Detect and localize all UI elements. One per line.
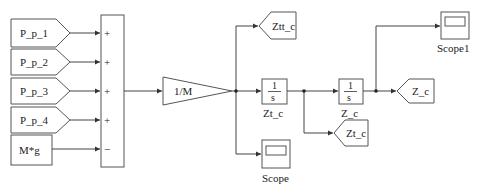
sum-sign-minus: − [104,143,110,155]
signal-line[interactable] [304,91,333,133]
constant-block-mg[interactable]: M*g [11,135,52,165]
signal-line[interactable] [236,26,258,91]
gain-label: 1/M [174,85,193,97]
integrator-block-zt-c[interactable]: 1 s [262,79,287,104]
from-block-p-p-4[interactable]: P_p_4 [11,107,70,133]
scope-block[interactable] [262,140,290,168]
integrator-numerator: 1 [272,80,277,91]
scope1-block[interactable] [441,12,469,39]
from-block-p-p-1[interactable]: P_p_1 [11,19,70,47]
sum-sign-plus: + [104,56,110,68]
sum-sign-plus: + [104,27,110,39]
goto-label: Zt_c [346,127,366,139]
integrator-numerator: 1 [348,80,353,91]
from-block-label: P_p_2 [20,56,48,68]
integrator-name-label: Z_c [341,107,358,119]
goto-label: Ztt_c [272,20,295,32]
gain-block[interactable]: 1/M [163,77,232,105]
from-block-label: P_p_1 [20,27,48,39]
from-block-p-p-3[interactable]: P_p_3 [11,78,70,104]
sum-block[interactable]: + + + + − [101,15,124,167]
sum-sign-plus: + [104,85,110,97]
branch-point [374,89,378,93]
from-block-label: P_p_3 [20,85,49,97]
goto-label: Z_c [412,85,429,97]
goto-block-zt-c[interactable]: Zt_c [334,120,368,146]
sum-sign-plus: + [104,114,110,126]
simulink-canvas: P_p_1 P_p_2 P_p_3 P_p_4 M*g + + + + − 1/… [0,0,482,189]
scope1-label: Scope1 [437,42,469,54]
goto-block-ztt-c[interactable]: Ztt_c [259,12,296,39]
integrator-name-label: Zt_c [263,107,283,119]
branch-point [234,89,238,93]
signal-line[interactable] [236,91,261,154]
scope-label: Scope [262,172,289,184]
constant-label: M*g [19,144,40,156]
from-block-p-p-2[interactable]: P_p_2 [11,49,70,75]
from-block-label: P_p_4 [20,114,49,126]
goto-block-z-c[interactable]: Z_c [397,79,434,103]
integrator-denominator: s [271,92,275,103]
integrator-denominator: s [347,92,351,103]
integrator-block-z-c[interactable]: 1 s [339,79,363,104]
branch-point [302,89,306,93]
